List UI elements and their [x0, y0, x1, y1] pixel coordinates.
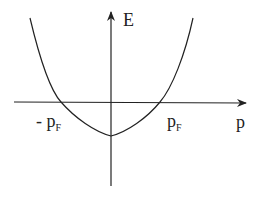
- p-axis: [14, 102, 246, 103]
- diagram-canvas: E p - pF pF: [0, 0, 257, 197]
- e-axis-label: E: [123, 10, 134, 30]
- pos-fermi-label: pF: [167, 111, 182, 133]
- neg-fermi-label: - pF: [36, 111, 62, 133]
- p-axis-label: p: [236, 112, 245, 132]
- dispersion-diagram: E p - pF pF: [0, 0, 257, 197]
